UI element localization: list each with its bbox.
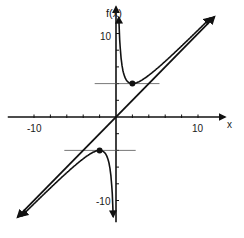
local-maximum-point [97, 147, 103, 153]
x-tick-label-neg10: -10 [27, 124, 41, 134]
curve-right-branch [119, 17, 211, 83]
y-axis-label: f(x) [106, 8, 122, 19]
y-tick-label-neg10: -10 [96, 197, 110, 207]
x-tick-label-10: 10 [192, 124, 203, 134]
x-axis-label: x [227, 120, 232, 130]
function-graph [0, 0, 244, 238]
y-tick-label-10: 10 [100, 32, 111, 42]
local-minimum-point [129, 81, 135, 87]
